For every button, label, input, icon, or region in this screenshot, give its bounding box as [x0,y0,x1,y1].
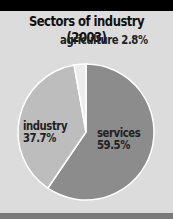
industry-value: 37.7% [23,132,67,144]
agriculture-value: 2.8% [121,33,147,47]
agriculture-label: agriculture 2.8% [60,34,148,46]
industry-label: industry 37.7% [23,120,67,144]
services-label: services 59.5% [97,127,140,151]
agriculture-name: agriculture [60,33,118,47]
services-value: 59.5% [97,139,140,151]
